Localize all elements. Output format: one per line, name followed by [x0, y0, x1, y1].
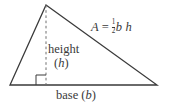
triangle-area-figure: height (h) base (b) A = 1 2 b h [0, 0, 169, 105]
base-label: base (b) [56, 89, 96, 102]
height-word-label: height [48, 43, 79, 56]
right-angle-marker-icon [36, 75, 46, 85]
formula-base-variable: b [116, 21, 122, 34]
formula-one-half-fraction: 1 2 [112, 19, 116, 35]
formula-area-symbol: A [91, 21, 99, 34]
triangle-outline [10, 5, 157, 85]
fraction-numerator: 1 [112, 19, 116, 27]
height-symbol-label: (h) [54, 57, 69, 70]
base-paren-close: ) [92, 88, 96, 102]
base-word: base [56, 88, 78, 102]
area-formula: A = 1 2 b h [91, 19, 132, 35]
formula-height-variable: h [126, 21, 132, 34]
height-paren-close: ) [64, 56, 68, 70]
fraction-denominator: 2 [112, 27, 116, 36]
formula-equals-sign: = [102, 21, 109, 34]
